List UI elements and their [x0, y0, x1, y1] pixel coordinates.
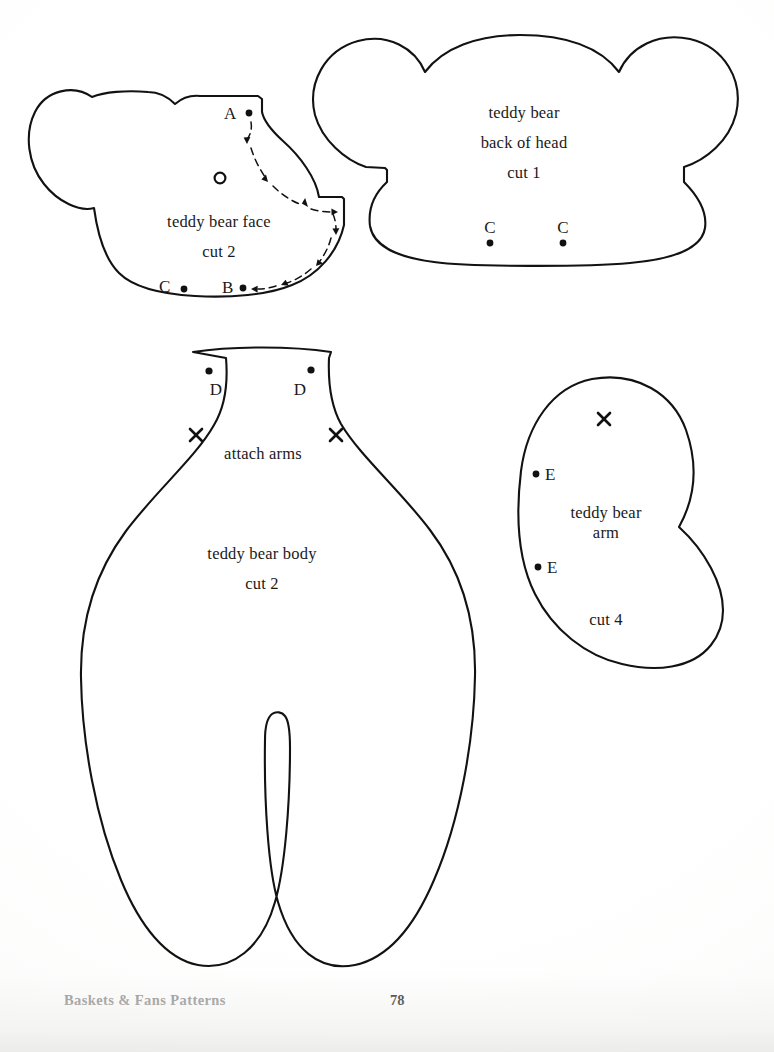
body-caption-line-2: cut 2 [245, 576, 279, 593]
back-of-head-caption-line-2: back of head [481, 135, 568, 152]
face-label-c: C [159, 278, 170, 295]
page-footer: Baskets & Fans Patterns 78 [0, 992, 774, 1020]
piece-teddy-bear-body [81, 348, 475, 967]
footer-page-number: 78 [390, 992, 405, 1009]
face-dot-c [181, 286, 188, 293]
arm-label-e-top: E [545, 466, 555, 483]
body-label-d-right: D [294, 381, 306, 398]
face-label-a: A [224, 105, 236, 122]
body-attach-arms-note: attach arms [224, 446, 302, 463]
teddy-bear-body-outline [81, 348, 475, 967]
arm-label-e-bottom: E [547, 559, 557, 576]
back-of-head-label-c-right: C [557, 219, 568, 236]
back-of-head-label-c-left: C [484, 219, 495, 236]
body-dot-d-right [307, 366, 314, 373]
face-label-b: B [222, 279, 233, 296]
piece-teddy-bear-face [29, 90, 344, 296]
face-caption-line-2: cut 2 [202, 244, 236, 261]
face-dot-b [240, 285, 247, 292]
back-of-head-caption-line-3: cut 1 [507, 165, 541, 182]
face-caption-line-1: teddy bear face [167, 214, 271, 231]
body-x-mark-left [190, 429, 202, 441]
arm-caption-line-3: cut 4 [589, 612, 623, 629]
pattern-sheet-graphics [0, 0, 774, 1052]
body-label-d-left: D [210, 381, 222, 398]
body-dot-d-left [205, 367, 212, 374]
face-dot-a [246, 110, 253, 117]
arm-caption-line-2: arm [593, 525, 619, 542]
teddy-bear-face-outline [29, 90, 344, 296]
back-of-head-caption-line-1: teddy bear [488, 105, 559, 122]
arm-dot-e-bottom [535, 564, 542, 571]
back-of-head-dot-c-right [560, 240, 567, 247]
arm-caption-line-1: teddy bear [570, 505, 641, 522]
arm-dot-e-top [533, 471, 540, 478]
back-of-head-dot-c-left [487, 240, 494, 247]
body-caption-line-1: teddy bear body [207, 546, 316, 563]
pattern-page: A B C teddy bear face cut 2 teddy bear b… [0, 0, 774, 1052]
footer-book-title: Baskets & Fans Patterns [64, 992, 226, 1009]
